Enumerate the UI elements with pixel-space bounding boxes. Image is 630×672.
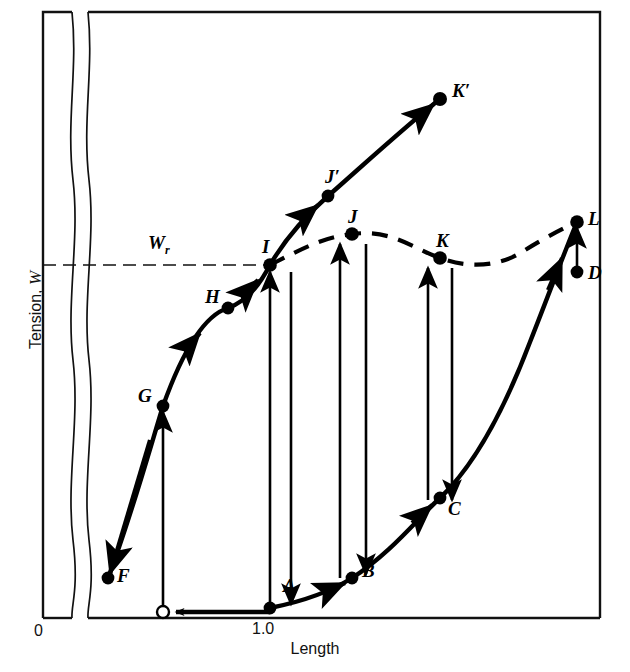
label-point-H: H bbox=[205, 286, 220, 308]
label-reference-wr: Wr bbox=[148, 232, 170, 258]
y-axis-label-symbol: W bbox=[26, 271, 45, 285]
label-point-K-prime: K′ bbox=[452, 80, 470, 102]
point-H bbox=[222, 302, 235, 315]
label-point-I: I bbox=[262, 236, 269, 258]
transition-arrows bbox=[163, 228, 577, 612]
point-J-prime bbox=[322, 190, 335, 203]
plot-canvas bbox=[0, 0, 630, 672]
point-I bbox=[263, 258, 277, 272]
point-J bbox=[345, 227, 359, 241]
label-point-F: F bbox=[117, 565, 130, 587]
point-A bbox=[264, 602, 277, 615]
series-metastable-curve bbox=[270, 222, 577, 265]
label-point-C: C bbox=[448, 498, 461, 520]
point-K bbox=[433, 251, 447, 265]
point-F bbox=[102, 572, 115, 585]
data-point-markers bbox=[102, 92, 584, 618]
axis-break-icon bbox=[71, 12, 92, 618]
point-L bbox=[570, 215, 584, 229]
figure-tension-length-hysteresis: F G H I J K J′ K′ A B C D L Wr Tension, … bbox=[0, 0, 630, 672]
point-open-circle bbox=[157, 606, 169, 618]
axis-origin-label: 0 bbox=[34, 622, 43, 640]
label-point-G: G bbox=[138, 385, 152, 407]
point-K-prime bbox=[433, 92, 447, 106]
label-point-D: D bbox=[588, 262, 602, 284]
label-wr-symbol: W bbox=[148, 232, 165, 253]
point-B bbox=[346, 572, 359, 585]
label-point-B: B bbox=[362, 560, 375, 582]
label-wr-subscript: r bbox=[165, 243, 170, 257]
point-D bbox=[571, 266, 584, 279]
label-point-A: A bbox=[283, 575, 296, 597]
series-lower-branch bbox=[270, 222, 577, 608]
series-upper-branch bbox=[108, 99, 440, 578]
label-point-K: K bbox=[436, 230, 449, 252]
label-point-J: J bbox=[348, 206, 358, 228]
y-axis-label: Tension, W bbox=[26, 230, 46, 390]
label-point-J-prime: J′ bbox=[325, 166, 340, 188]
point-G bbox=[157, 400, 170, 413]
point-C bbox=[434, 492, 447, 505]
x-axis-label: Length bbox=[0, 640, 630, 658]
x-tick-label-1: 1.0 bbox=[252, 620, 274, 638]
y-axis-label-text: Tension, bbox=[27, 290, 44, 350]
label-point-L: L bbox=[588, 208, 600, 230]
